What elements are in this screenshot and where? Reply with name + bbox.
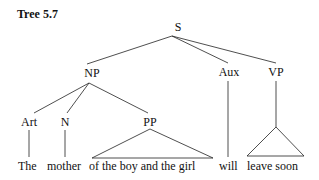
edge-s-np xyxy=(87,36,172,64)
leaf-the: The xyxy=(18,159,37,173)
node-n: N xyxy=(61,115,70,129)
leaf-mother: mother xyxy=(47,159,81,173)
tree-canvas: Tree 5.7 S NP Aux VP Art N PP The mother… xyxy=(0,0,319,180)
leaf-pp-phrase: of the boy and the girl xyxy=(89,159,196,173)
figure-title: Tree 5.7 xyxy=(17,7,58,21)
node-s: S xyxy=(175,20,182,34)
leaf-vp-phrase: leave soon xyxy=(247,159,298,173)
node-vp: VP xyxy=(268,65,284,79)
edge-s-vp xyxy=(172,36,276,63)
node-aux: Aux xyxy=(219,65,240,79)
tree-diagram: Tree 5.7 S NP Aux VP Art N PP The mother… xyxy=(0,0,319,180)
node-np: NP xyxy=(84,66,100,80)
node-pp: PP xyxy=(143,115,157,129)
node-art: Art xyxy=(21,115,38,129)
edge-np-n xyxy=(67,83,89,113)
vp-triangle xyxy=(247,127,304,156)
edge-np-pp xyxy=(89,83,148,113)
edge-np-art xyxy=(34,83,89,113)
edge-s-aux xyxy=(172,36,228,63)
pp-triangle xyxy=(92,129,213,158)
leaf-will: will xyxy=(219,159,238,173)
